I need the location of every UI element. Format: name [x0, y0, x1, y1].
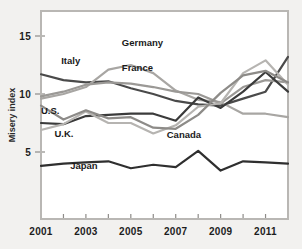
x-tick-label: 2001	[29, 226, 53, 237]
x-tick-label: 2009	[209, 226, 233, 237]
figure-caption	[2, 243, 302, 249]
x-tick-label: 2011	[254, 226, 277, 237]
chart-figure: 51015 200120032005200720092011 ItalyGerm…	[0, 0, 302, 249]
y-tick-label: 15	[19, 31, 31, 42]
series-label-italy: Italy	[61, 55, 81, 66]
misery-index-line-chart: 51015 200120032005200720092011 ItalyGerm…	[0, 0, 302, 249]
y-tick-label: 10	[19, 89, 31, 100]
series-label-canada: Canada	[167, 129, 202, 140]
y-axis-title: Misery index	[7, 88, 17, 143]
series-label-france: France	[122, 62, 153, 73]
series-label-uk: U.K.	[54, 128, 73, 139]
x-tick-label: 2005	[119, 226, 143, 237]
y-tick-label: 5	[25, 147, 31, 158]
series-label-japan: Japan	[70, 160, 98, 171]
series-label-us: U.S.	[41, 105, 59, 116]
x-tick-label: 2007	[164, 226, 188, 237]
series-label-germany: Germany	[122, 37, 164, 48]
x-tick-label: 2003	[74, 226, 98, 237]
